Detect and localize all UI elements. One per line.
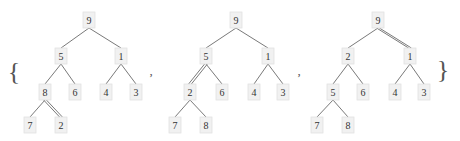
tree-edge <box>236 28 268 48</box>
double-edge <box>189 64 205 84</box>
node-label: 3 <box>422 87 427 98</box>
node-label: 8 <box>43 87 48 98</box>
close-brace: } <box>437 55 449 84</box>
tree-edge <box>190 100 206 117</box>
tree-node: 4 <box>389 84 401 100</box>
node-label: 4 <box>104 87 109 98</box>
tree-3: 921564378 <box>311 12 430 133</box>
tree-edge <box>268 64 283 84</box>
node-label: 2 <box>346 51 351 62</box>
node-label: 9 <box>87 15 92 26</box>
tree-edge <box>254 64 268 84</box>
tree-node: 8 <box>39 84 51 100</box>
node-label: 1 <box>408 51 413 62</box>
tree-node: 9 <box>372 12 384 28</box>
node-label: 1 <box>119 51 124 62</box>
tree-node: 5 <box>200 48 212 64</box>
open-brace: { <box>8 57 20 86</box>
tree-edge <box>206 64 222 84</box>
tree-node: 9 <box>230 12 242 28</box>
node-label: 5 <box>59 51 64 62</box>
tree-node: 3 <box>130 84 142 100</box>
tree-edge <box>410 64 424 84</box>
node-label: 9 <box>234 15 239 26</box>
tree-set-diagram: { 951864372 , 951264378 , 921564378 } <box>0 0 460 141</box>
tree-edge <box>121 64 136 84</box>
double-edge <box>191 64 207 84</box>
tree-edge <box>333 64 348 84</box>
tree-2: 951264378 <box>169 12 289 133</box>
node-label: 4 <box>252 87 257 98</box>
tree-node: 2 <box>55 117 67 133</box>
node-label: 1 <box>266 51 271 62</box>
tree-node: 6 <box>216 84 228 100</box>
tree-node: 6 <box>357 84 369 100</box>
tree-node: 9 <box>83 12 95 28</box>
double-edge <box>44 100 60 117</box>
double-edge <box>379 28 411 48</box>
tree-edge <box>206 28 236 48</box>
tree-1: 951864372 <box>24 12 142 133</box>
separator-comma-1: , <box>149 63 152 78</box>
tree-edge <box>45 64 61 84</box>
tree-node: 8 <box>342 117 354 133</box>
node-label: 2 <box>59 120 64 131</box>
tree-node: 4 <box>100 84 112 100</box>
node-label: 8 <box>204 120 209 131</box>
node-label: 7 <box>315 120 320 131</box>
separator-comma-2: , <box>297 63 300 78</box>
tree-node: 2 <box>184 84 196 100</box>
tree-node: 5 <box>55 48 67 64</box>
tree-node: 6 <box>69 84 81 100</box>
tree-edge <box>175 100 190 117</box>
tree-node: 4 <box>248 84 260 100</box>
node-label: 9 <box>376 15 381 26</box>
tree-edge <box>348 28 378 48</box>
tree-node: 5 <box>327 84 339 100</box>
node-label: 5 <box>331 87 336 98</box>
node-label: 3 <box>134 87 139 98</box>
tree-edge <box>395 64 410 84</box>
tree-node: 3 <box>418 84 430 100</box>
tree-node: 7 <box>24 117 36 133</box>
tree-edge <box>61 28 89 48</box>
node-label: 6 <box>361 87 366 98</box>
node-label: 6 <box>73 87 78 98</box>
node-label: 7 <box>28 120 33 131</box>
tree-edge <box>106 64 121 84</box>
tree-node: 1 <box>262 48 274 64</box>
node-label: 3 <box>281 87 286 98</box>
tree-node: 3 <box>277 84 289 100</box>
tree-edge <box>317 100 333 117</box>
tree-edge <box>333 100 348 117</box>
tree-node: 7 <box>311 117 323 133</box>
node-label: 8 <box>346 120 351 131</box>
tree-edge <box>30 100 45 117</box>
double-edge <box>377 28 409 48</box>
tree-node: 7 <box>169 117 181 133</box>
double-edge <box>46 100 62 117</box>
node-label: 4 <box>393 87 398 98</box>
node-label: 6 <box>220 87 225 98</box>
node-label: 7 <box>173 120 178 131</box>
tree-edge <box>89 28 121 48</box>
tree-node: 1 <box>115 48 127 64</box>
tree-edge <box>348 64 363 84</box>
node-label: 5 <box>204 51 209 62</box>
tree-node: 2 <box>342 48 354 64</box>
tree-node: 8 <box>200 117 212 133</box>
node-label: 2 <box>188 87 193 98</box>
tree-edge <box>61 64 75 84</box>
tree-node: 1 <box>404 48 416 64</box>
